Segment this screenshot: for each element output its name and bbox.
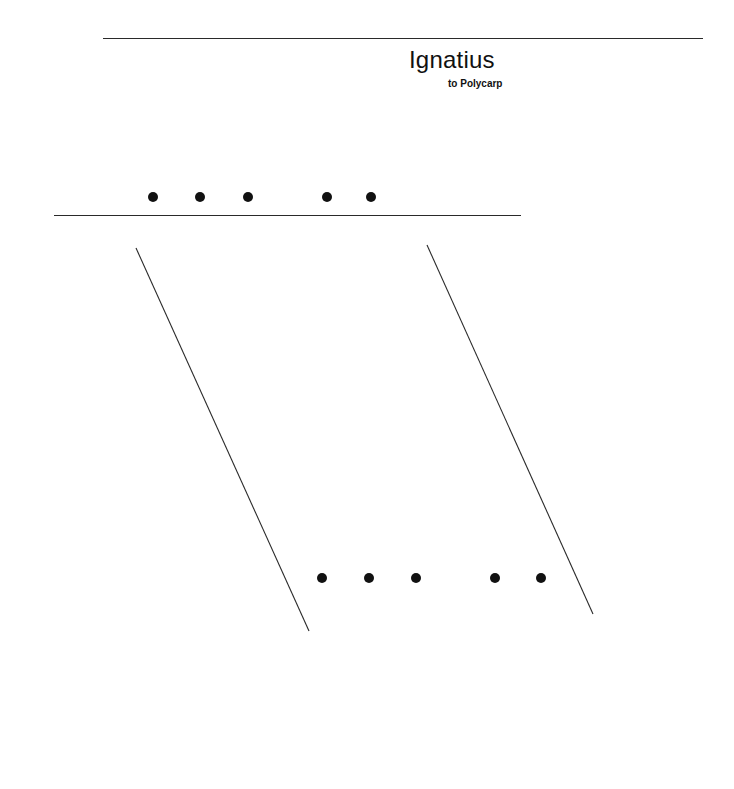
dot xyxy=(536,573,546,583)
slanted-lines xyxy=(0,0,734,789)
left-slant-line xyxy=(136,248,309,631)
dot xyxy=(411,573,421,583)
dot xyxy=(364,573,374,583)
right-slant-line xyxy=(427,245,593,614)
dot xyxy=(317,573,327,583)
dot xyxy=(490,573,500,583)
